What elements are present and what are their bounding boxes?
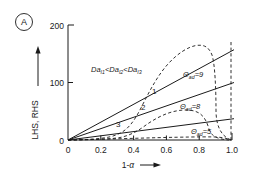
line-number-1: 1: [152, 87, 157, 96]
rhs-dashed-curves: [68, 45, 231, 140]
curve-theta-ad-9: [68, 45, 231, 140]
x-tick-label-0p6: 0.6: [160, 145, 172, 155]
y-axis-ticks: 200 100 0: [50, 21, 73, 146]
theta-ad-labels: Θad=9 Θad=8 Θad=5: [180, 70, 212, 137]
theta-value-8: 8: [196, 102, 201, 111]
y-tick-label-100: 100: [50, 78, 64, 88]
theta-ad-label-5: Θad=5: [191, 127, 212, 137]
x-axis-title-group: 1-α: [122, 160, 161, 170]
y-axis-title-group: LHS, RHS: [30, 46, 41, 140]
damkohler-symbol-1: Da: [91, 65, 101, 74]
damkohler-sub-3: I3: [137, 69, 141, 75]
x-tick-label-0p4: 0.4: [128, 145, 140, 155]
theta-ad-label-8: Θad=8: [180, 102, 201, 112]
x-tick-label-0: 0: [66, 145, 71, 155]
panel-letter-label: A: [21, 17, 27, 27]
y-tick-label-200: 200: [50, 21, 64, 31]
damkohler-order-text: DaI1<DaI2<DaI3: [91, 65, 142, 75]
x-tick-label-0p8: 0.8: [193, 145, 205, 155]
y-tick-label-0: 0: [59, 136, 64, 146]
damkohler-symbol-3: Da: [128, 65, 138, 74]
y-axis-label: LHS, RHS: [30, 100, 40, 140]
damkohler-symbol-2: Da: [109, 65, 119, 74]
line-number-3: 3: [116, 120, 121, 129]
x-axis-label-symbol: α: [129, 160, 135, 170]
x-axis-arrow-head: [154, 163, 162, 168]
y-axis-arrow-head: [35, 46, 40, 54]
damkohler-order-annotation: DaI1<DaI2<DaI3: [91, 65, 142, 75]
figure-panel: A LHS, RHS 200 100 0: [0, 0, 258, 182]
x-axis-label-prefix: 1-: [122, 160, 130, 170]
theta-value-9: 9: [199, 70, 204, 79]
x-tick-label-0p2: 0.2: [95, 145, 107, 155]
x-tick-label-1p0: 1.0: [226, 145, 238, 155]
panel-letter-badge: A: [16, 14, 33, 31]
line-number-labels: 1 2 3: [116, 87, 157, 129]
chart-svg: A LHS, RHS 200 100 0: [0, 0, 258, 182]
line-number-2: 2: [141, 103, 146, 112]
theta-value-5: 5: [207, 127, 212, 136]
x-axis-label: 1-α: [122, 160, 136, 170]
x-axis-ticks: 0 0.2 0.4 0.6 0.8 1.0: [66, 136, 239, 156]
